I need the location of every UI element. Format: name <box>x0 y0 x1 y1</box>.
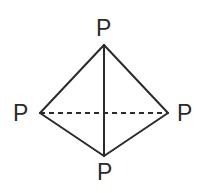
molecule-diagram: P P P P <box>0 0 201 193</box>
bond-top-right <box>104 45 168 113</box>
bond-right-bottom <box>104 113 168 156</box>
bond-left-bottom <box>40 113 104 156</box>
atom-label-bottom: P <box>97 161 112 184</box>
bond-top-left <box>40 45 104 113</box>
atom-label-top: P <box>96 17 111 40</box>
atom-label-left: P <box>13 102 28 125</box>
atom-label-right: P <box>177 102 192 125</box>
